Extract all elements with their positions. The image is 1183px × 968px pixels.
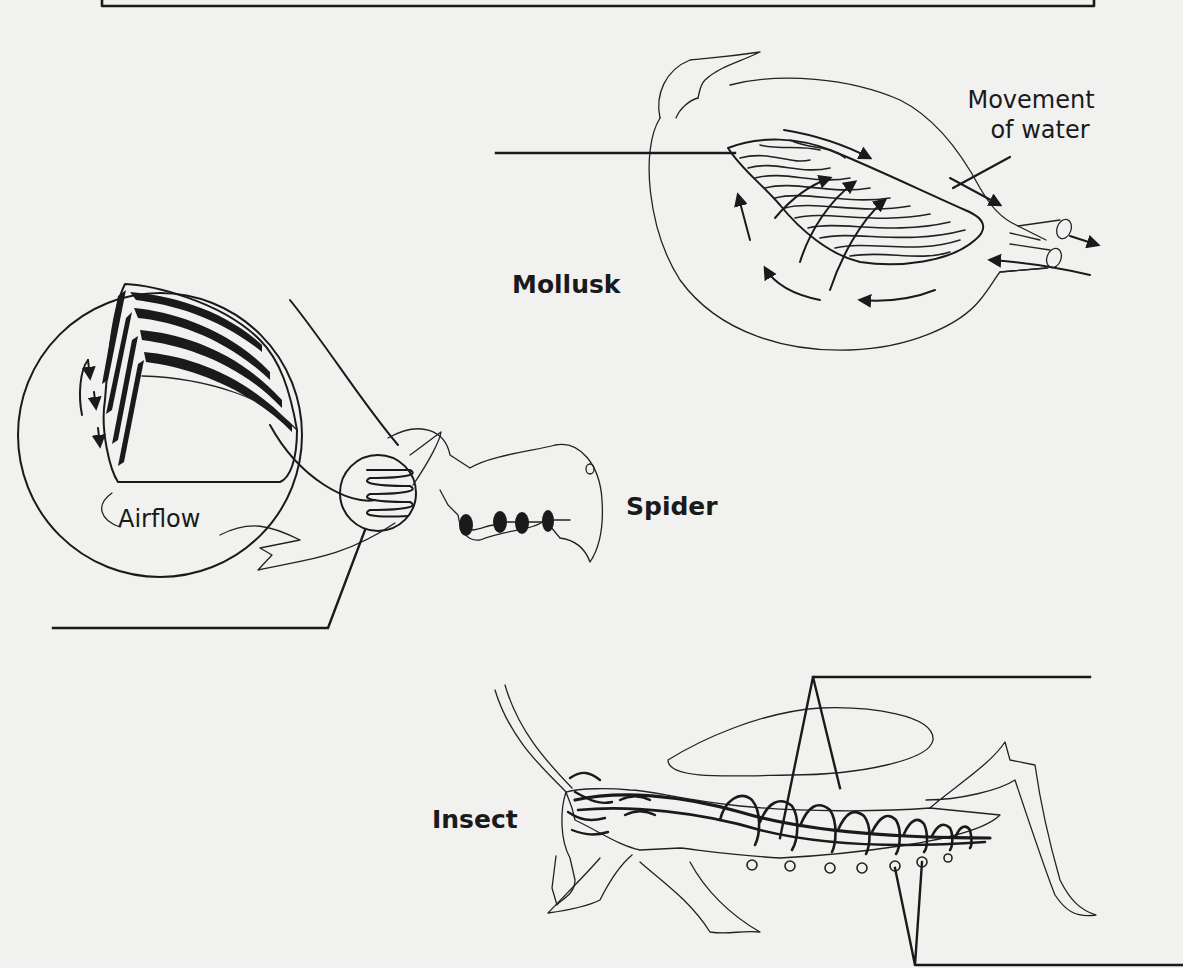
insect-figure — [495, 677, 1183, 965]
mollusk-label: Mollusk — [512, 270, 622, 299]
spider-figure — [18, 284, 602, 628]
mollusk-body-outline — [649, 78, 1046, 350]
spider-label: Spider — [626, 492, 718, 521]
water-movement-label-line2: of water — [990, 116, 1089, 144]
insect-label: Insect — [432, 805, 518, 834]
spider-blank-label-line — [53, 530, 365, 628]
water-movement-label-line1: Movement — [967, 86, 1094, 114]
top-frame — [102, 0, 1094, 6]
insect-blank-label-line-lower — [895, 862, 1183, 965]
respiration-diagram: Mollusk Movement of water — [0, 0, 1183, 968]
spider-abdomen-outline — [388, 429, 602, 562]
airflow-label: Airflow — [118, 505, 200, 533]
